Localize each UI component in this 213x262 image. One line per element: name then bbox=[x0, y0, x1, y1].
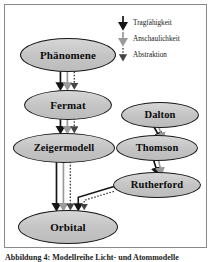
node-label: Orbital bbox=[50, 222, 86, 233]
figure-caption-text: Abbildung 4: Modellreihe Licht- und Atom… bbox=[5, 252, 210, 262]
node-label: Dalton bbox=[145, 110, 176, 121]
node-thomson[interactable]: Thomson bbox=[116, 135, 198, 161]
legend-label: Anschaulichkeit bbox=[133, 35, 180, 43]
figure-caption: Abbildung 4: Modellreihe Licht- und Atom… bbox=[5, 252, 210, 262]
node-label: Thomson bbox=[136, 143, 179, 154]
node-orbital[interactable]: Orbital bbox=[18, 210, 118, 244]
arrow-down-dotted-icon bbox=[117, 47, 133, 63]
edge-rutherford-orbital bbox=[78, 186, 114, 205]
legend-label: Abstraktion bbox=[133, 51, 167, 59]
node-fermat[interactable]: Fermat bbox=[24, 90, 112, 120]
edge-zeigermodell-orbital bbox=[56, 162, 70, 206]
legend-item-anschaulichkeit: Anschaulichkeit bbox=[117, 31, 209, 47]
node-label: Rutherford bbox=[131, 180, 183, 191]
legend-item-tragfaehigkeit: Tragfähigkeit bbox=[117, 15, 209, 31]
node-zeigermodell[interactable]: Zeigermodell bbox=[13, 133, 115, 163]
figure-frame: Phänomene Fermat Zeigermodell Orbital Da… bbox=[4, 4, 207, 248]
node-label: Fermat bbox=[50, 100, 85, 111]
edge-thomson-rutherford bbox=[154, 160, 161, 170]
legend-item-abstraktion: Abstraktion bbox=[117, 47, 209, 63]
node-dalton[interactable]: Dalton bbox=[121, 102, 199, 128]
arrow-down-solid-gray-icon bbox=[117, 31, 133, 47]
edge-phaenomene-fermat bbox=[60, 72, 74, 85]
arrow-down-solid-black-icon bbox=[117, 15, 133, 31]
legend: Tragfähigkeit Anschaulichkeit Abstraktio… bbox=[117, 15, 209, 63]
node-label: Phänomene bbox=[40, 50, 96, 61]
node-phaenomene[interactable]: Phänomene bbox=[20, 38, 116, 72]
node-label: Zeigermodell bbox=[34, 143, 95, 154]
node-rutherford[interactable]: Rutherford bbox=[113, 172, 201, 198]
legend-label: Tragfähigkeit bbox=[133, 19, 172, 27]
